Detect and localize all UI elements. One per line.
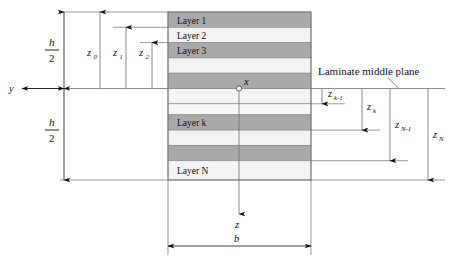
layer-label-3: Layer 3 (177, 46, 207, 56)
z1-label: z (112, 47, 117, 58)
half-thickness-upper: h 2 (45, 12, 64, 89)
zn1-subscript: N-1 (400, 125, 411, 132)
layer-label-2: Layer 2 (177, 31, 207, 41)
z0-label: z (86, 47, 91, 58)
width-label: b (234, 233, 239, 244)
zn-subscript: N (438, 135, 444, 142)
right-extension-lines (311, 104, 445, 180)
left-extension-lines (60, 12, 168, 180)
y-axis-group: y (8, 83, 64, 94)
figure-canvas: Layer 1 Layer 2 Layer 3 Layer k Layer N … (0, 0, 453, 271)
middle-plane-label: Laminate middle plane (318, 65, 420, 77)
zk-label: z (366, 101, 371, 112)
h-half-lower-numerator: h (49, 116, 55, 128)
width-dimension-group: b (168, 180, 311, 255)
layer-label-k: Layer k (177, 118, 207, 128)
z2-label: z (138, 47, 143, 58)
upper-coordinate-arrows: z 0 z 1 z 2 (86, 12, 152, 89)
h-half-lower-denominator: 2 (49, 132, 55, 144)
z-axis-label: z (234, 219, 239, 230)
laminate-diagram: Layer 1 Layer 2 Layer 3 Layer k Layer N … (0, 0, 453, 271)
layer-band-4 (168, 58, 311, 73)
z1-subscript: 1 (120, 53, 123, 60)
x-axis-label: x (243, 76, 249, 87)
middle-plane-leader-line (388, 78, 399, 89)
zn-label: z (432, 129, 437, 140)
z2-subscript: 2 (146, 53, 150, 60)
lower-coordinate-arrows: z k-1 z k z N-1 z N (322, 88, 444, 180)
layer-band-9 (168, 130, 311, 145)
h-half-upper-denominator: 2 (49, 52, 55, 64)
y-axis-label: y (8, 83, 14, 94)
zk1-subscript: k-1 (334, 94, 343, 101)
layer-label-1: Layer 1 (177, 16, 207, 26)
layer-band-10 (168, 145, 311, 160)
half-thickness-lower: h 2 (45, 89, 64, 181)
zk-subscript: k (373, 107, 377, 114)
zn1-label: z (394, 119, 399, 130)
origin-marker (236, 86, 241, 91)
middle-plane-callout: Laminate middle plane (318, 65, 420, 89)
zk1-label: z (327, 88, 332, 99)
h-half-upper-numerator: h (49, 36, 55, 48)
layer-band-7 (168, 104, 311, 115)
z0-subscript: 0 (94, 53, 98, 60)
layer-label-n: Layer N (177, 166, 209, 176)
